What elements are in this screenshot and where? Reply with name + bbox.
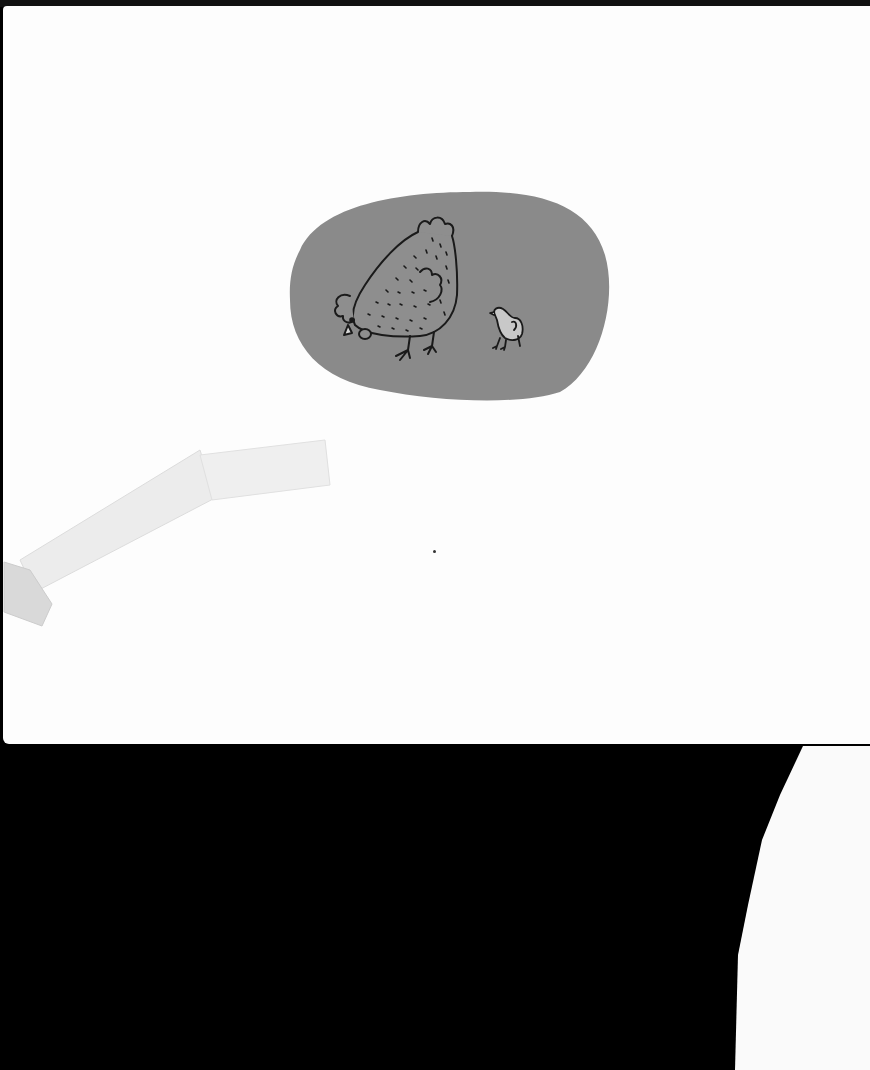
paper-fold [735, 746, 870, 1070]
illustration [0, 0, 870, 1070]
masking-tape [4, 440, 330, 626]
speck [433, 550, 436, 553]
